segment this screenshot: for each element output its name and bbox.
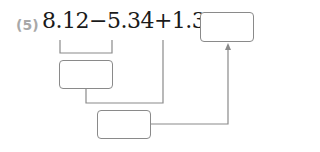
intermediate-box-2[interactable]: [97, 110, 151, 139]
arrow-up-icon: [225, 43, 231, 50]
intermediate-box-1[interactable]: [59, 60, 113, 89]
answer-box[interactable]: [200, 12, 254, 42]
